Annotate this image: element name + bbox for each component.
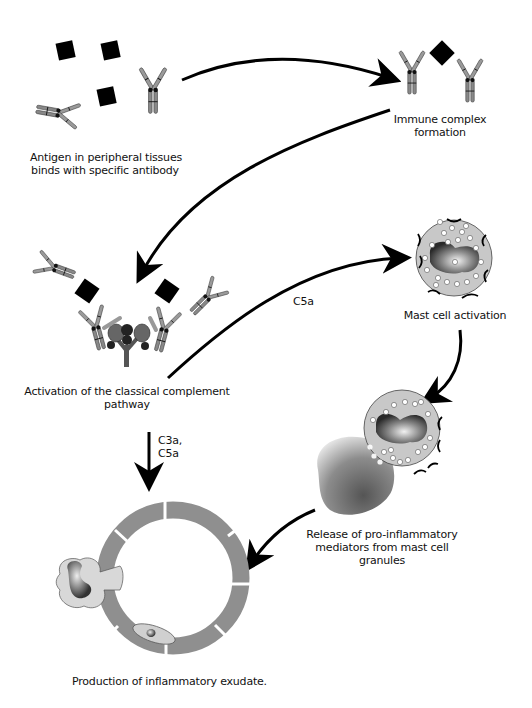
edge-label-c5a: C5a xyxy=(293,295,314,308)
label-exudate: Production of inflammatory exudate. xyxy=(72,675,267,688)
mast-cell-icon xyxy=(416,219,492,298)
label-mediator-release-line2: mediators from mast cell xyxy=(306,541,458,554)
label-antigen: Antigen in peripheral tissues binds with… xyxy=(30,151,180,177)
label-mediator-release-line1: Release of pro-inflammatory xyxy=(306,528,458,541)
diagram-canvas: Antigen in peripheral tissues binds with… xyxy=(0,0,532,708)
arrow-mast-to-release xyxy=(430,330,461,398)
blood-vessel-icon xyxy=(56,500,251,656)
label-immune-complex: Immune complex formation xyxy=(385,113,495,139)
edge-label-c3a-c5a: C3a, C5a xyxy=(158,434,182,460)
antibody-icon xyxy=(139,67,167,113)
antigen-icon xyxy=(97,86,117,106)
label-mast-activation: Mast cell activation xyxy=(400,309,510,322)
label-immune-complex-line1: Immune complex xyxy=(385,113,495,126)
label-antigen-line2: binds with specific antibody xyxy=(30,164,180,177)
antibody-icon xyxy=(34,96,82,130)
edge-label-c5a-2: C5a xyxy=(158,447,182,460)
label-mediator-release-line3: granules xyxy=(306,554,458,567)
label-mediator-release: Release of pro-inflammatory mediators fr… xyxy=(306,528,458,567)
degranulating-mast-cell-icon xyxy=(317,390,442,515)
edge-label-c3a: C3a, xyxy=(158,434,182,447)
label-complement-line2: pathway xyxy=(22,398,232,411)
arrow-antigen-to-complex xyxy=(182,59,390,80)
immune-complex-icon xyxy=(399,40,484,102)
antigen-icon xyxy=(101,40,121,60)
antigen-group xyxy=(34,40,167,130)
label-antigen-line1: Antigen in peripheral tissues xyxy=(30,151,180,164)
label-complement: Activation of the classical complement p… xyxy=(22,385,232,411)
label-immune-complex-line2: formation xyxy=(385,126,495,139)
arrow-complex-to-complement xyxy=(142,110,390,273)
antigen-icon xyxy=(56,40,76,60)
label-complement-line1: Activation of the classical complement xyxy=(22,385,232,398)
arrow-complement-to-mast xyxy=(168,258,400,378)
